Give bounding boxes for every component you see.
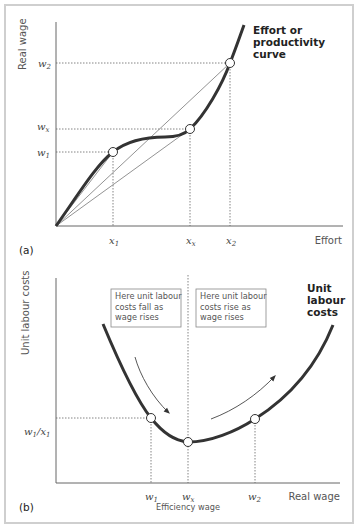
efficiency-wage-label: Efficiency wage bbox=[156, 502, 220, 512]
point-w2 bbox=[251, 415, 260, 424]
curve-points bbox=[109, 59, 235, 157]
rays-from-origin bbox=[56, 63, 230, 226]
panel-label-b: (b) bbox=[19, 501, 34, 513]
x-axis-label: Effort bbox=[315, 235, 342, 246]
tick-x1: x1 bbox=[109, 235, 119, 248]
effort-curve bbox=[56, 25, 244, 226]
y-axis-label-b: Unit labour costs bbox=[20, 271, 31, 356]
tick-w2-b: w2 bbox=[248, 491, 262, 504]
panel-a: Real wage w2 wx w1 x1 xx x2 Effort (a) E… bbox=[17, 18, 343, 256]
y-axis-label: Real wage bbox=[17, 18, 28, 70]
point-x1-w1 bbox=[109, 148, 118, 157]
x-axis-label-b: Real wage bbox=[288, 491, 340, 502]
unit-labour-cost-curve bbox=[103, 324, 333, 442]
point-w1 bbox=[147, 414, 156, 423]
tick-x2: x2 bbox=[226, 235, 237, 248]
point-x2-w2 bbox=[226, 59, 235, 68]
tick-xx: xx bbox=[186, 235, 196, 248]
curve-label-effort: Effort or productivity curve bbox=[253, 24, 329, 60]
tick-w1-over-x1: w1/x1 bbox=[24, 426, 51, 439]
panel-b: Here unit labour costs fall as wage rise… bbox=[19, 271, 349, 514]
curve-label-ulc: Unit labour costs bbox=[307, 282, 349, 318]
tick-w1: w1 bbox=[37, 147, 50, 160]
point-xx-wx bbox=[186, 125, 195, 134]
point-wx bbox=[184, 438, 193, 447]
tick-w2: w2 bbox=[38, 58, 52, 71]
tick-wx: wx bbox=[37, 121, 50, 134]
figure-svg: Real wage w2 wx w1 x1 xx x2 Effort (a) E… bbox=[0, 0, 362, 530]
panel-label-a: (a) bbox=[19, 244, 34, 256]
